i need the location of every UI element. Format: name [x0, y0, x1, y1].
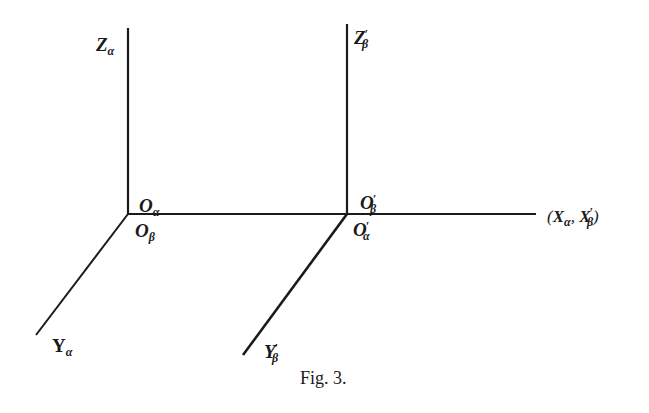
- figure-caption: Fig. 3.: [300, 368, 347, 389]
- z-beta-prime-label: Z′β: [354, 28, 368, 50]
- separator: ,: [571, 207, 580, 226]
- label-sub: α: [108, 44, 115, 58]
- label-sub: α: [153, 205, 160, 219]
- origin-beta-label: Oβ: [135, 221, 155, 243]
- paren-close: ): [593, 207, 599, 226]
- origin-alpha-label: Oα: [139, 196, 159, 218]
- label-base: Y: [52, 335, 66, 356]
- label-sub: β: [370, 202, 376, 216]
- origin-alpha-prime-label: O′α: [353, 220, 370, 242]
- label-base: X: [553, 207, 564, 226]
- y-beta-prime-axis: [243, 214, 347, 355]
- z-alpha-label: Zα: [96, 35, 114, 57]
- origin-beta-prime-label: O′β: [360, 193, 376, 215]
- shared-x-label: (Xα, X′β): [547, 206, 599, 228]
- label-sub: β: [149, 230, 155, 244]
- label-sub: β: [272, 351, 278, 365]
- label-sub: β: [362, 37, 368, 51]
- label-sub: α: [363, 229, 370, 243]
- label-sub: α: [564, 215, 571, 229]
- label-sub: α: [66, 345, 73, 359]
- label-base: O: [139, 195, 153, 216]
- label-base: Z: [96, 34, 108, 55]
- y-beta-prime-label: Y′β: [264, 342, 278, 364]
- label-base: O: [135, 220, 149, 241]
- y-alpha-label: Yα: [52, 336, 72, 358]
- y-alpha-axis: [36, 214, 128, 335]
